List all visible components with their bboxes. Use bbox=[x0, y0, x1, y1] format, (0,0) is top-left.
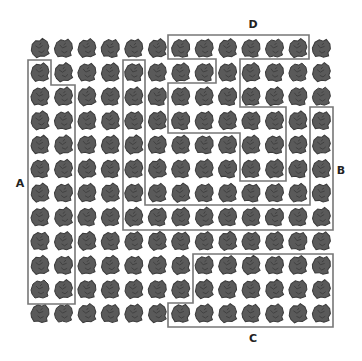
rock-icon bbox=[312, 38, 332, 58]
rock-icon bbox=[241, 135, 261, 155]
rock-icon bbox=[170, 182, 191, 203]
rock-icon bbox=[54, 232, 72, 250]
rock-icon bbox=[100, 303, 120, 323]
rock-icon bbox=[195, 183, 214, 202]
rock-icon bbox=[170, 110, 191, 131]
rock-icon bbox=[100, 182, 121, 203]
rock-icon bbox=[77, 38, 96, 57]
rock-icon bbox=[148, 183, 167, 202]
rock-icon bbox=[77, 303, 97, 323]
rock-icon bbox=[242, 159, 261, 178]
rock-icon bbox=[124, 111, 143, 130]
rock-icon bbox=[30, 87, 49, 106]
rock-icon bbox=[265, 255, 284, 274]
rock-icon bbox=[171, 87, 190, 106]
rock-icon bbox=[148, 63, 167, 82]
rock-icon bbox=[101, 159, 120, 178]
rock-icon bbox=[312, 87, 330, 105]
rock-icon bbox=[77, 63, 96, 82]
rock-icon bbox=[53, 134, 74, 155]
rock-icon bbox=[265, 231, 284, 250]
rock-icon bbox=[264, 279, 285, 300]
rock-icon bbox=[30, 303, 50, 323]
rock-icon bbox=[147, 231, 168, 252]
rock-icon bbox=[78, 183, 97, 202]
rock-icon bbox=[265, 111, 283, 129]
rock-icon bbox=[171, 159, 190, 178]
rock-icon bbox=[53, 62, 74, 83]
rock-icon bbox=[124, 183, 143, 202]
rock-icon bbox=[194, 279, 215, 300]
rock-icon bbox=[124, 159, 143, 178]
rock-icon bbox=[100, 255, 120, 275]
rock-icon bbox=[311, 62, 331, 82]
rock-icon bbox=[171, 231, 190, 250]
rock-icon bbox=[264, 62, 284, 82]
rock-icon bbox=[218, 111, 238, 131]
rock-icon bbox=[289, 207, 308, 226]
rock-icon bbox=[53, 207, 73, 227]
rock-icon bbox=[242, 231, 261, 250]
rock-icon bbox=[218, 135, 237, 154]
rock-icon bbox=[30, 110, 51, 131]
rock-icon bbox=[54, 183, 74, 203]
rock-icon bbox=[264, 206, 285, 227]
region-d-outline bbox=[168, 35, 309, 181]
rock-icon bbox=[101, 135, 120, 154]
rock-icon bbox=[124, 279, 144, 299]
rock-icon bbox=[289, 63, 307, 81]
rock-icon bbox=[100, 38, 121, 59]
rock-icon bbox=[77, 207, 97, 227]
rock-icon bbox=[55, 304, 73, 322]
rock-icon bbox=[195, 111, 214, 130]
rock-icon bbox=[54, 159, 73, 178]
rock-icon bbox=[31, 208, 49, 226]
rock-icon bbox=[31, 135, 50, 154]
rock-icon bbox=[241, 38, 261, 58]
rock-icon bbox=[312, 159, 330, 177]
rock-icon bbox=[264, 134, 284, 154]
rock-icon bbox=[194, 62, 214, 82]
rock-icon bbox=[54, 87, 73, 106]
rock-icon bbox=[265, 183, 284, 202]
rock-icon bbox=[218, 207, 237, 226]
rock-icon bbox=[101, 62, 120, 81]
rock-icon bbox=[312, 231, 331, 250]
rock-icon bbox=[195, 255, 214, 274]
rock-icon bbox=[195, 39, 213, 57]
rock-icon bbox=[288, 158, 308, 178]
rock-icon bbox=[312, 207, 332, 227]
rock-icon bbox=[289, 135, 307, 153]
rock-icon bbox=[217, 230, 238, 251]
rock-icon bbox=[194, 134, 215, 155]
rock-icon bbox=[30, 255, 50, 275]
rock-icon bbox=[148, 111, 167, 130]
rock-icon bbox=[288, 231, 309, 252]
rock-icon bbox=[30, 231, 50, 251]
rock-icon bbox=[241, 254, 262, 275]
region-d-label: D bbox=[248, 18, 257, 31]
rock-icon bbox=[171, 207, 190, 226]
rock-icon bbox=[54, 39, 73, 58]
rock-icon bbox=[287, 303, 308, 324]
rock-icon bbox=[171, 135, 190, 154]
rock-icon bbox=[288, 280, 307, 299]
rock-icon bbox=[124, 255, 144, 275]
rock-icon bbox=[241, 110, 261, 130]
rock-icon bbox=[265, 159, 285, 179]
rock-icon bbox=[242, 280, 261, 299]
rock-icon bbox=[171, 280, 190, 299]
rock-icon bbox=[78, 256, 96, 274]
rock-icon bbox=[241, 182, 262, 203]
rock-icon bbox=[101, 207, 120, 226]
rock-icon bbox=[288, 255, 307, 274]
rock-icon bbox=[311, 110, 331, 130]
rock-icon bbox=[218, 183, 237, 202]
rock-icon bbox=[54, 255, 74, 275]
rock-icon bbox=[241, 303, 260, 322]
rock-icon bbox=[218, 38, 238, 58]
rock-icon bbox=[101, 87, 120, 106]
rock-icon bbox=[124, 231, 143, 250]
rock-icon bbox=[124, 206, 145, 227]
rock-icon bbox=[54, 111, 73, 130]
